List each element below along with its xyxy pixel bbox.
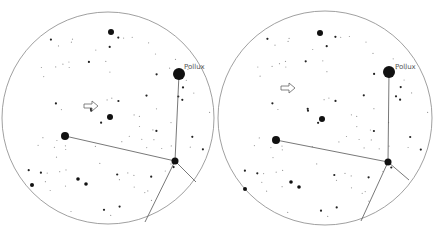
faint-star bbox=[54, 147, 55, 148]
faint-star bbox=[370, 129, 371, 130]
faint-star bbox=[346, 136, 347, 137]
faint-star bbox=[28, 169, 30, 171]
faint-star bbox=[171, 145, 172, 146]
faint-star bbox=[365, 191, 366, 192]
faint-star bbox=[95, 50, 96, 51]
faint-star bbox=[328, 98, 329, 99]
faint-star bbox=[356, 116, 357, 117]
faint-star bbox=[65, 149, 66, 150]
faint-star bbox=[312, 49, 313, 50]
faint-star bbox=[393, 58, 394, 59]
constellation-line bbox=[65, 136, 175, 161]
faint-star bbox=[146, 147, 147, 148]
faint-star bbox=[276, 172, 277, 173]
faint-star bbox=[202, 148, 204, 150]
faint-star bbox=[145, 95, 147, 97]
faint-star bbox=[244, 170, 246, 172]
faint-star bbox=[349, 36, 350, 37]
faint-star bbox=[41, 67, 42, 68]
faint-star bbox=[110, 215, 111, 216]
faint-star bbox=[271, 102, 273, 104]
faint-star bbox=[121, 141, 122, 142]
faint-star bbox=[69, 67, 70, 68]
faint-star bbox=[305, 60, 307, 62]
faint-star bbox=[170, 163, 171, 164]
faint-star bbox=[119, 206, 121, 208]
faint-star bbox=[99, 163, 100, 164]
faint-star bbox=[100, 122, 102, 124]
faint-star bbox=[182, 86, 184, 88]
faint-star bbox=[288, 41, 289, 42]
faint-star bbox=[156, 108, 157, 109]
faint-star bbox=[111, 98, 112, 99]
faint-star bbox=[270, 147, 271, 148]
faint-star bbox=[390, 166, 392, 168]
pollux-label: Pollux bbox=[184, 63, 205, 71]
faint-star bbox=[169, 68, 170, 69]
faint-star bbox=[404, 79, 405, 80]
faint-star bbox=[95, 146, 96, 147]
faint-star bbox=[117, 100, 119, 102]
bright-star bbox=[289, 180, 293, 184]
faint-star bbox=[336, 180, 337, 181]
faint-star bbox=[263, 173, 264, 174]
bright-star bbox=[76, 177, 80, 181]
faint-star bbox=[62, 64, 63, 65]
faint-star bbox=[129, 136, 130, 137]
faint-star bbox=[274, 45, 275, 46]
faint-star bbox=[161, 148, 162, 149]
faint-star bbox=[47, 173, 48, 174]
faint-star bbox=[266, 38, 268, 40]
arrow-icon bbox=[281, 83, 295, 93]
faint-star bbox=[282, 186, 283, 187]
constellation-line bbox=[175, 161, 196, 182]
faint-star bbox=[42, 137, 43, 138]
faint-star bbox=[175, 59, 176, 60]
faint-star bbox=[50, 39, 52, 41]
faint-star bbox=[326, 71, 327, 72]
faint-star bbox=[65, 145, 66, 146]
right-chart-boundary bbox=[218, 11, 432, 225]
faint-star bbox=[379, 148, 380, 149]
faint-star bbox=[327, 216, 328, 217]
faint-star bbox=[272, 66, 273, 67]
faint-star bbox=[38, 145, 39, 146]
faint-star bbox=[411, 92, 412, 93]
faint-star bbox=[123, 38, 124, 39]
faint-star bbox=[261, 182, 262, 183]
faint-star bbox=[324, 99, 325, 100]
faint-star bbox=[139, 126, 140, 127]
faint-star bbox=[151, 200, 152, 201]
faint-star bbox=[362, 193, 363, 194]
faint-star bbox=[400, 86, 402, 88]
faint-star bbox=[134, 114, 135, 115]
faint-star bbox=[56, 157, 57, 158]
faint-star bbox=[338, 141, 339, 142]
faint-star bbox=[155, 130, 157, 132]
faint-star bbox=[181, 99, 183, 101]
faint-star bbox=[45, 181, 46, 182]
faint-star bbox=[373, 73, 375, 75]
faint-star bbox=[133, 175, 134, 176]
constellation-line bbox=[145, 161, 175, 222]
faint-star bbox=[150, 176, 152, 178]
faint-star bbox=[190, 147, 191, 148]
faint-star bbox=[127, 172, 128, 173]
faint-star bbox=[365, 42, 366, 43]
faint-star bbox=[139, 116, 140, 117]
faint-star bbox=[427, 112, 428, 113]
bright-star bbox=[243, 187, 247, 191]
faint-star bbox=[409, 136, 411, 138]
faint-star bbox=[344, 173, 345, 174]
bright-star bbox=[319, 116, 325, 122]
faint-star bbox=[71, 42, 72, 43]
bright-star bbox=[61, 132, 69, 140]
constellation-line bbox=[388, 72, 389, 162]
faint-star bbox=[372, 53, 373, 54]
faint-star bbox=[43, 76, 44, 77]
bright-star bbox=[385, 159, 392, 166]
faint-star bbox=[285, 66, 286, 67]
faint-star bbox=[117, 37, 119, 39]
faint-star bbox=[256, 172, 258, 174]
faint-star bbox=[316, 163, 317, 164]
